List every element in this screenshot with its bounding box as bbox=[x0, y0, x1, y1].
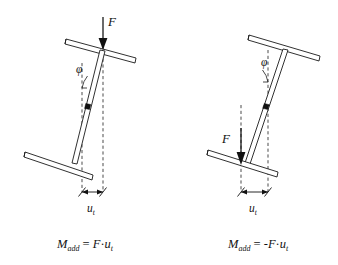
angle-arc bbox=[82, 76, 88, 88]
formula-equals: = bbox=[250, 237, 263, 251]
displacement-label: ut bbox=[249, 202, 258, 217]
displacement-label: ut bbox=[87, 202, 96, 217]
angle-label: φ bbox=[261, 56, 268, 69]
mid-hinge bbox=[85, 104, 91, 110]
formula-lhs: M bbox=[56, 237, 68, 251]
force-label: F bbox=[221, 131, 231, 146]
formula-force: F bbox=[92, 237, 101, 251]
formula-left: Madd = F·ut bbox=[56, 237, 114, 253]
bottom-plate bbox=[24, 152, 93, 180]
angle-label: φ bbox=[76, 63, 83, 76]
right-panel: F φ ut Madd = -F·ut bbox=[207, 35, 320, 253]
formula-right: Madd = -F·ut bbox=[227, 237, 289, 253]
displacement-label-sub: t bbox=[255, 208, 258, 217]
force-label: F bbox=[107, 14, 117, 29]
formula-u-sub: t bbox=[111, 244, 114, 253]
angle-arc bbox=[263, 70, 269, 82]
left-panel: F φ ut Madd = F·ut bbox=[24, 14, 136, 253]
formula-lhs: M bbox=[227, 237, 239, 251]
formula-equals: = bbox=[79, 237, 92, 251]
formula-force: F bbox=[267, 237, 276, 251]
displacement-label-sub: t bbox=[93, 208, 96, 217]
figure-root: F φ ut Madd = F·ut bbox=[0, 0, 338, 265]
formula-u-sub: t bbox=[286, 244, 289, 253]
diagram-canvas: F φ ut Madd = F·ut bbox=[0, 0, 338, 265]
